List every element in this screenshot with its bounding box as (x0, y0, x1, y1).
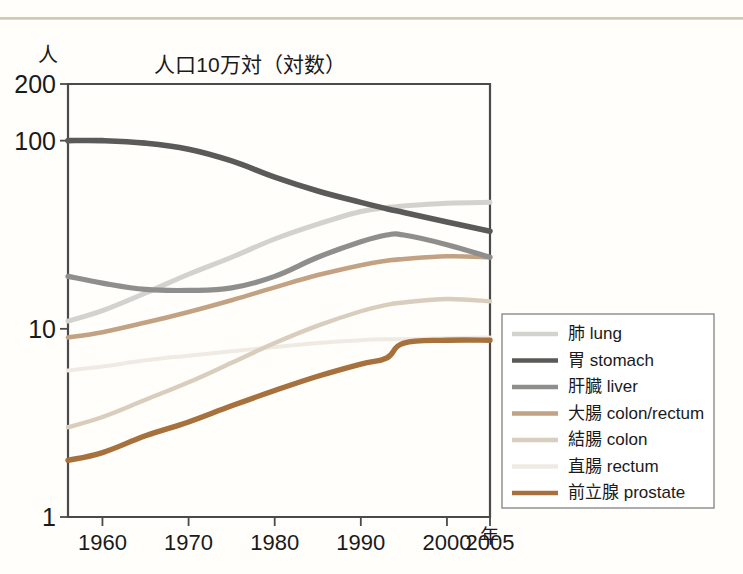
legend-label: 肝臓 liver (568, 377, 638, 396)
legend-label: 胃 stomach (568, 351, 654, 370)
figure-root: 110100200 196019701980199020002005 人口10万… (0, 0, 743, 574)
series-line-stomach (68, 140, 490, 231)
x-axis-unit-label: 年 (480, 526, 499, 547)
chart-title: 人口10万対（対数） (154, 53, 345, 76)
y-tick-label: 100 (14, 127, 56, 155)
legend: 肺 lung胃 stomach肝臓 liver大腸 colon/rectum結腸… (502, 314, 714, 508)
series-lines (68, 140, 490, 460)
x-axis: 196019701980199020002005 (78, 517, 515, 555)
x-tick-label: 2000 (422, 530, 471, 555)
legend-label: 肺 lung (568, 324, 622, 343)
x-tick-label: 1980 (250, 530, 299, 555)
legend-label: 結腸 colon (568, 430, 647, 449)
mortality-rate-line-chart: 110100200 196019701980199020002005 人口10万… (0, 0, 743, 574)
y-tick-label: 10 (28, 315, 56, 343)
y-axis-unit-label: 人 (38, 44, 58, 66)
series-line-liver (68, 234, 490, 291)
y-axis: 110100200 (14, 70, 68, 531)
x-tick-label: 1960 (78, 530, 127, 555)
y-tick-label: 1 (42, 503, 56, 531)
series-line-prostate (68, 340, 490, 460)
legend-label: 大腸 colon/rectum (568, 404, 704, 423)
legend-label: 前立腺 prostate (568, 483, 685, 502)
x-tick-label: 1990 (336, 530, 385, 555)
x-tick-label: 1970 (164, 530, 213, 555)
y-tick-label: 200 (14, 70, 56, 98)
legend-label: 直腸 rectum (568, 457, 659, 476)
